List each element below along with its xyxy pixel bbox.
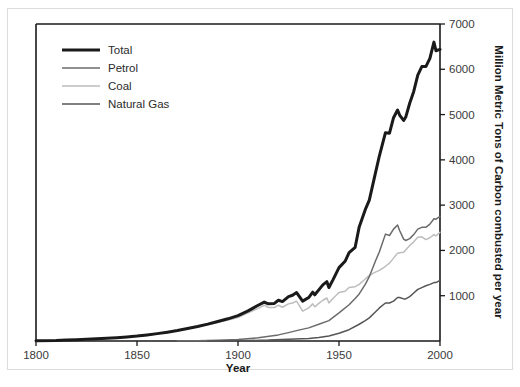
y-axis-ticks: 1000200030004000500060007000 xyxy=(440,18,475,302)
series-line-natural-gas xyxy=(208,280,440,341)
legend-label-coal: Coal xyxy=(108,80,132,92)
x-tick-label: 2000 xyxy=(427,349,453,361)
y-tick-label: 5000 xyxy=(449,109,475,121)
chart-card: 18001850190019502000 1000200030004000500… xyxy=(0,0,520,387)
x-axis-title: Year xyxy=(226,362,251,374)
series-line-coal xyxy=(36,232,440,340)
series-line-total xyxy=(36,42,440,341)
y-tick-label: 2000 xyxy=(449,244,475,256)
legend-label-total: Total xyxy=(108,44,132,56)
y-tick-label: 4000 xyxy=(449,154,475,166)
y-axis-title: Million Metric Tons of Carbon combusted … xyxy=(493,45,505,319)
x-axis-ticks: 18001850190019502000 xyxy=(23,341,453,361)
chart-legend: TotalPetrolCoalNatural Gas xyxy=(62,44,170,110)
y-tick-label: 1000 xyxy=(449,290,475,302)
x-tick-label: 1850 xyxy=(124,349,150,361)
y-tick-label: 3000 xyxy=(449,199,475,211)
legend-label-petrol: Petrol xyxy=(108,62,138,74)
line-chart: 18001850190019502000 1000200030004000500… xyxy=(0,0,520,387)
y-tick-label: 6000 xyxy=(449,63,475,75)
x-tick-label: 1900 xyxy=(225,349,251,361)
plot-frame xyxy=(36,24,440,341)
x-tick-label: 1950 xyxy=(326,349,352,361)
series-group xyxy=(36,42,440,341)
y-tick-label: 7000 xyxy=(449,18,475,30)
x-tick-label: 1800 xyxy=(23,349,49,361)
legend-label-natural-gas: Natural Gas xyxy=(108,98,170,110)
